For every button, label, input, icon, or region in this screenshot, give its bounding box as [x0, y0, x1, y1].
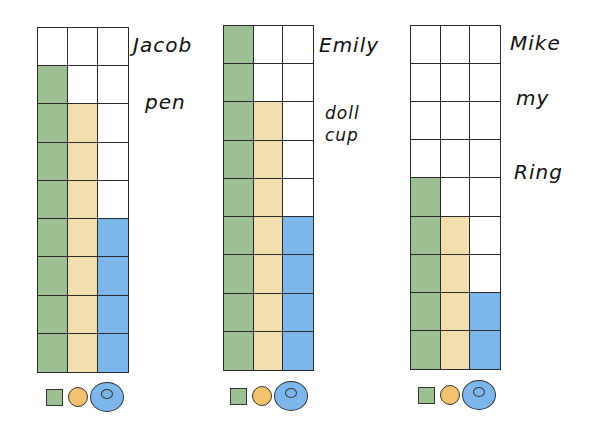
grid-cell [441, 255, 471, 293]
grid-cell [283, 294, 313, 332]
square-icon [230, 388, 247, 405]
square-icon [418, 387, 435, 404]
grid-cell [411, 26, 441, 64]
panel-mike: Mike my Ring [0, 0, 200, 446]
grid-cell [411, 217, 441, 255]
grid-cell [441, 178, 471, 216]
grid-cell [470, 102, 500, 140]
ring-inner [285, 388, 297, 398]
grid-cell [224, 102, 254, 140]
word-label: doll [325, 105, 360, 122]
grid-cell [411, 64, 441, 102]
grid-cell [441, 64, 471, 102]
word-label: Ring [514, 162, 563, 182]
grid-cell [254, 102, 284, 140]
grid-cell [470, 255, 500, 293]
word-label: cup [325, 127, 359, 144]
grid-cell [283, 64, 313, 102]
grid-cell [254, 179, 284, 217]
grid-cell [254, 332, 284, 370]
grid-cell [283, 141, 313, 179]
bar-grid [223, 25, 314, 371]
circle-icon [440, 385, 460, 405]
grid-cell [441, 140, 471, 178]
grid-cell [441, 26, 471, 64]
bar-grid [410, 25, 501, 370]
grid-cell [411, 331, 441, 369]
grid-cell [254, 26, 284, 64]
grid-cell [470, 217, 500, 255]
grid-cell [411, 255, 441, 293]
grid-cell [283, 26, 313, 64]
legend [418, 380, 496, 410]
grid-cell [441, 217, 471, 255]
grid-cell [470, 178, 500, 216]
panel-name-label: Emily [319, 35, 379, 55]
grid-cell [283, 179, 313, 217]
grid-cell [441, 102, 471, 140]
grid-cell [254, 64, 284, 102]
grid-cell [254, 141, 284, 179]
grid-cell [254, 255, 284, 293]
panel-name-label: Mike [510, 33, 561, 53]
grid-cell [283, 102, 313, 140]
word-label: my [516, 88, 549, 108]
grid-cell [470, 331, 500, 369]
grid-cell [224, 64, 254, 102]
ring-inner [473, 387, 485, 397]
grid-cell [224, 179, 254, 217]
grid-cell [283, 217, 313, 255]
grid-cell [411, 293, 441, 331]
grid-cell [470, 140, 500, 178]
ring-icon [274, 381, 308, 411]
grid-cell [254, 217, 284, 255]
grid-cell [224, 217, 254, 255]
grid-cell [441, 293, 471, 331]
grid-cell [224, 294, 254, 332]
grid-cell [224, 141, 254, 179]
grid-cell [224, 255, 254, 293]
grid-cell [254, 294, 284, 332]
grid-cell [411, 178, 441, 216]
grid-cell [470, 64, 500, 102]
circle-icon [252, 386, 272, 406]
legend [230, 381, 308, 411]
grid-cell [470, 293, 500, 331]
grid-cell [224, 332, 254, 370]
grid-cell [283, 332, 313, 370]
grid-cell [441, 331, 471, 369]
ring-icon [462, 380, 496, 410]
grid-cell [411, 140, 441, 178]
grid-cell [283, 255, 313, 293]
grid-cell [470, 26, 500, 64]
grid-cell [411, 102, 441, 140]
grid-cell [224, 26, 254, 64]
